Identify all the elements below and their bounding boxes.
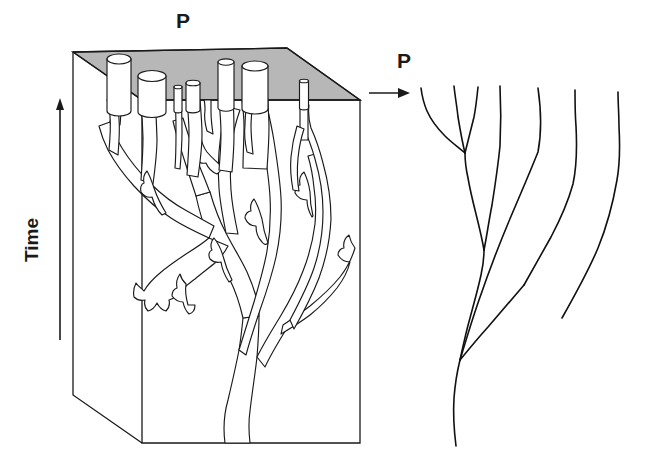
tree-tip-branch-6 [524,90,577,285]
present-plane-label: P [176,9,190,32]
tree-root-stem [454,360,460,446]
time-axis-label: Time [21,218,42,262]
coral-lineage [99,100,355,443]
coral-trunk [224,316,259,443]
tree-tip-branch-3 [465,87,478,153]
time-block-panel: P Time [21,9,360,443]
cylinder-5 [218,59,234,111]
cylinder-1 [107,54,131,116]
tree-tip-branch-7 [562,92,620,318]
phylogenetic-tree-panel: P [397,49,620,446]
figure-svg: P Time [0,0,653,464]
tree-branch-clade-a-sub [465,153,484,250]
time-axis-arrowhead [56,98,64,110]
cylinder-2 [138,71,166,118]
tree-branch-clade-b [460,285,524,360]
coral-deadend-center-hand [245,199,268,244]
transform-arrowhead [398,88,410,98]
tree-branch-clade-a [460,250,484,360]
tree-present-label: P [397,49,411,72]
coral-twig-b [204,100,213,134]
cylinder-4 [186,80,200,113]
cylinder-6 [242,61,268,114]
transform-arrow [369,88,410,98]
cylinder-7 [300,79,309,110]
tree-tip-branch-2 [454,86,465,153]
time-axis: Time [21,98,64,340]
cylinder-3 [174,85,182,113]
tree-tip-branch-4 [484,86,501,250]
figure-root: P Time [0,0,653,464]
